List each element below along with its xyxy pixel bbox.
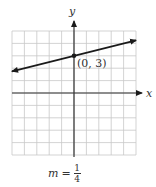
slope-fraction: 1 4 [74, 163, 81, 184]
point-label: (0, 3) [77, 57, 107, 70]
y-axis-label: y [68, 5, 76, 18]
slope-numerator: 1 [74, 163, 80, 173]
slope-caption: m = 1 4 [48, 160, 98, 186]
y-intercept-point [72, 54, 77, 59]
coordinate-graph: x y (0, 3) [0, 0, 156, 187]
slope-equals: = [61, 167, 70, 180]
slope-denominator: 4 [74, 174, 80, 184]
x-axis-label: x [146, 87, 153, 100]
slope-variable: m [48, 167, 58, 180]
